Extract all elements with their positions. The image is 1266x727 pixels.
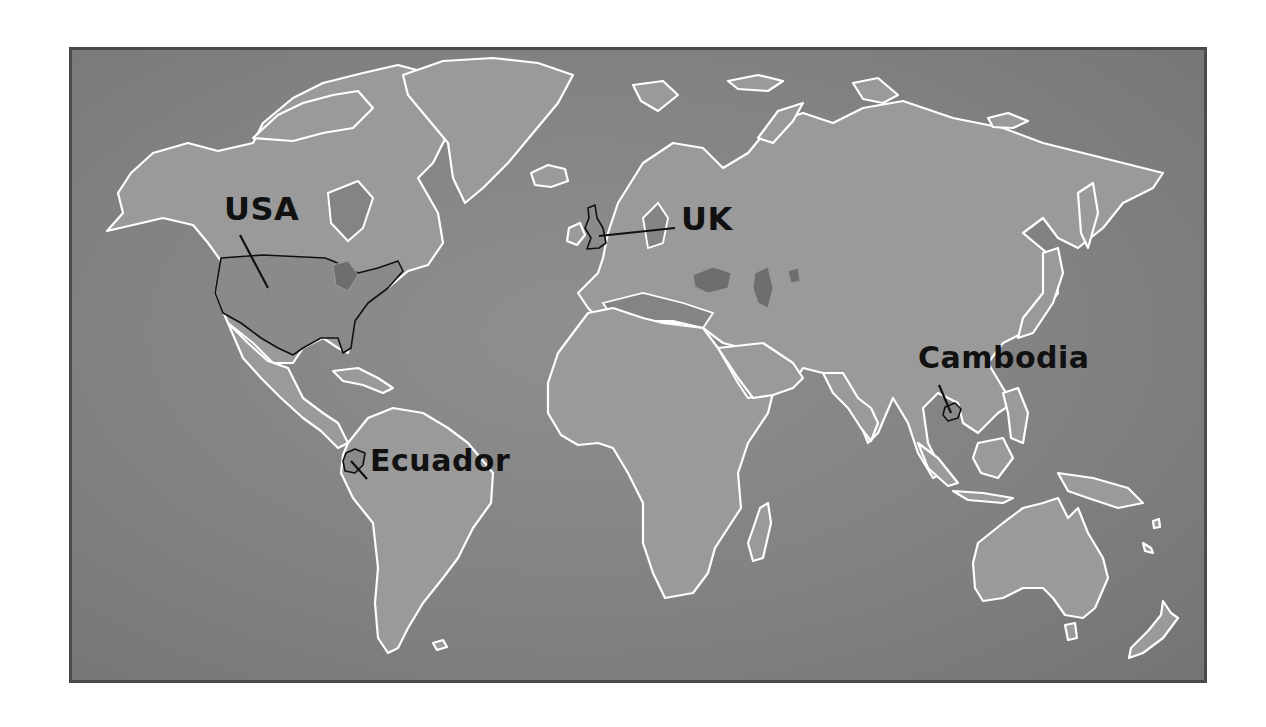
ireland-landmass	[567, 223, 585, 245]
svalbard	[633, 81, 678, 111]
franz-josef-land	[728, 75, 783, 91]
pacific-islet	[1143, 543, 1153, 553]
java-island	[953, 491, 1013, 503]
australia-landmass	[973, 498, 1108, 618]
new-zealand-islands	[1129, 601, 1178, 658]
usa-label: USA	[224, 193, 299, 225]
new-siberian-islands	[988, 113, 1028, 128]
borneo-island	[973, 438, 1013, 478]
uk-label: UK	[681, 203, 733, 235]
iceland-landmass	[531, 165, 568, 187]
new-guinea-island	[1058, 473, 1143, 508]
philippines-islands	[1003, 388, 1028, 443]
cambodia-label: Cambodia	[918, 343, 1090, 373]
caribbean-islands	[333, 368, 393, 393]
cambodia-country	[943, 403, 961, 421]
uk-country	[585, 205, 606, 249]
ecuador-label: Ecuador	[370, 446, 510, 476]
falkland-islands	[433, 640, 447, 650]
madagascar-island	[748, 503, 771, 561]
tasmania-island	[1065, 623, 1077, 640]
severnaya-zemlya	[853, 78, 898, 103]
pacific-islet	[1153, 519, 1160, 528]
